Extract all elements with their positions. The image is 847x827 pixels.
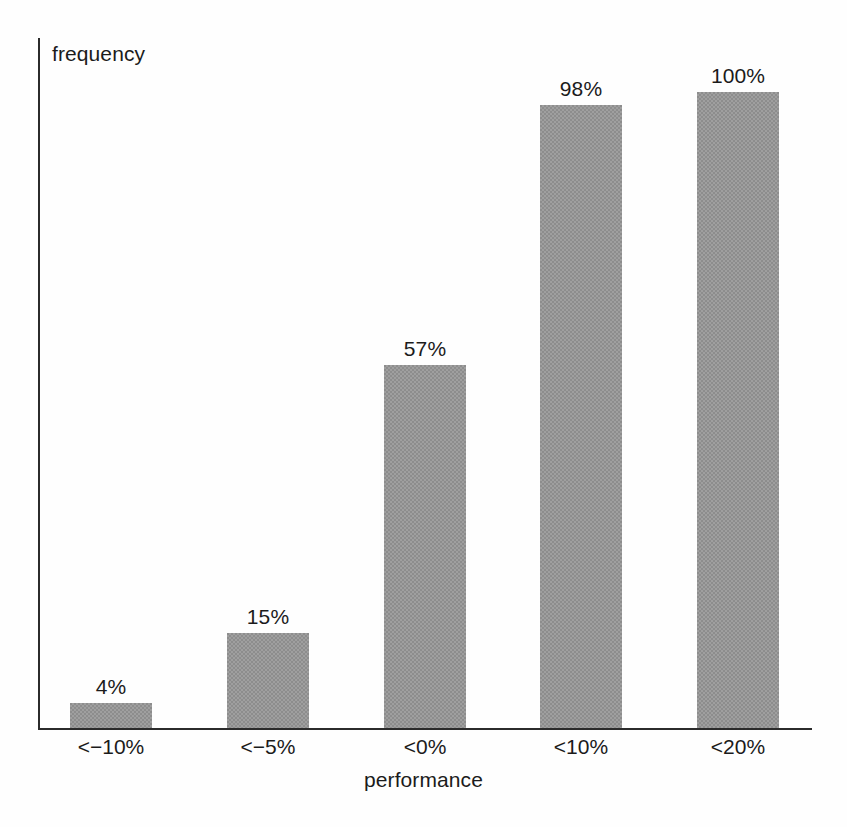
bar-rect [384, 365, 466, 728]
bar-value-label: 15% [202, 605, 334, 629]
bar-rect [70, 703, 152, 728]
bar-value-label: 4% [45, 675, 177, 699]
x-tick-labels: <−10% <−5% <0% <10% <20% [0, 735, 847, 769]
bar-rect [227, 633, 309, 728]
plot-area: frequency 4% 15% 57% 98% 100% [0, 0, 847, 827]
bar-group: 100% [697, 92, 779, 728]
bar-rect [540, 105, 622, 728]
bar-group: 4% [70, 703, 152, 728]
bar-value-label: 100% [672, 64, 804, 88]
bars-layer: 4% 15% 57% 98% 100% [0, 0, 847, 827]
x-tick-label: <0% [359, 735, 491, 759]
bar-group: 57% [384, 365, 466, 728]
x-tick-label: <−5% [202, 735, 334, 759]
bar-group: 98% [540, 105, 622, 728]
bar-chart-figure: frequency 4% 15% 57% 98% 100% [0, 0, 847, 827]
bar-value-label: 57% [359, 337, 491, 361]
x-tick-label: <−10% [45, 735, 177, 759]
bar-value-label: 98% [515, 77, 647, 101]
bar-group: 15% [227, 633, 309, 728]
x-tick-label: <20% [672, 735, 804, 759]
bar-rect [697, 92, 779, 728]
x-axis-title: performance [0, 768, 847, 792]
x-tick-label: <10% [515, 735, 647, 759]
